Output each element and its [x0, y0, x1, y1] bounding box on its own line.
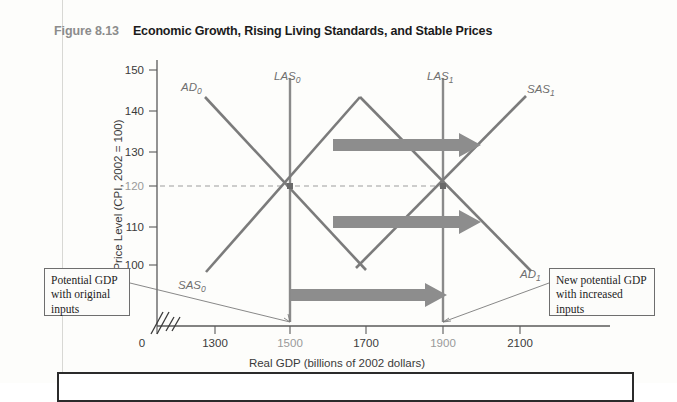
ytick-120: 120: [125, 180, 144, 192]
xtick-1900: 1900: [430, 337, 456, 349]
equilibrium-point-initial: [287, 183, 293, 189]
axis-break-icon: [151, 312, 180, 334]
xtick-1300: 1300: [202, 337, 228, 349]
xtick-1700: 1700: [353, 337, 379, 349]
sas-shift-arrow: [333, 133, 481, 157]
ad-shift-arrow: [333, 210, 481, 234]
y-axis-title: Price Level (CPI, 2002 = 100): [112, 119, 124, 270]
las-shift-arrow: [291, 283, 447, 307]
curve-label-las1: LAS1: [427, 70, 454, 85]
x-axis: 0 1300 1500 1700 1900 2100 Real GDP (bil…: [139, 326, 610, 369]
ytick-130: 130: [125, 146, 144, 158]
ytick-150: 150: [125, 64, 144, 76]
callout-right-arrowhead: [443, 318, 451, 322]
callout-potential-gdp-original: Potential GDP with original inputs: [44, 268, 130, 316]
curve-label-sas1: SAS1: [527, 83, 555, 98]
x-axis-title: Real GDP (billions of 2002 dollars): [249, 357, 425, 369]
curve-label-ad1: AD1: [519, 268, 541, 283]
equilibrium-point-new: [440, 183, 446, 189]
xtick-2100: 2100: [507, 337, 533, 349]
xtick-1500: 1500: [277, 337, 303, 349]
ytick-110: 110: [126, 221, 144, 233]
ytick-140: 140: [125, 105, 144, 117]
callout-potential-gdp-new: New potential GDP with increased inputs: [549, 268, 655, 316]
curve-label-ad0: AD0: [180, 81, 202, 96]
curve-label-sas0: SAS0: [178, 279, 206, 294]
curve-sas1: [356, 96, 526, 268]
curve-label-las0: LAS0: [274, 70, 301, 85]
xtick-0: 0: [139, 337, 145, 349]
figure-caption-box: [57, 372, 634, 402]
callout-right-leader: [443, 283, 549, 322]
callout-left-leader: [130, 283, 290, 322]
